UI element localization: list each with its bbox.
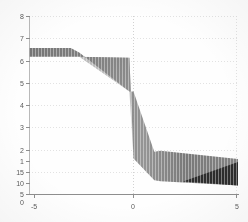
plot-area <box>29 16 238 194</box>
x-label-neg5: -5 <box>23 203 45 210</box>
y-tick-2 <box>26 150 30 151</box>
y-tick-15 <box>26 172 30 173</box>
y-label-6: 6 <box>2 58 24 65</box>
band-polygon <box>29 48 238 186</box>
y-label-10: 10 <box>0 180 24 187</box>
y-label-4: 4 <box>2 102 24 109</box>
y-tick-8 <box>26 16 30 17</box>
x-label-5: 5 <box>226 203 248 210</box>
y-label-15: 15 <box>0 169 24 176</box>
y-label-5: 5 <box>2 80 24 87</box>
band-step-column <box>79 57 133 159</box>
y-tick-4 <box>26 105 30 106</box>
y-tick-1 <box>26 161 30 162</box>
x-tick-0 <box>133 194 134 198</box>
shaded-band <box>29 16 238 194</box>
y-tick-10 <box>26 183 30 184</box>
y-tick-6 <box>26 61 30 62</box>
x-tick-5 <box>236 194 237 198</box>
y-label-8: 8 <box>2 13 24 20</box>
band-svg <box>29 16 238 194</box>
y-label-1: 1 <box>2 158 24 165</box>
x-tick-neg5 <box>34 194 35 198</box>
y-label-3: 3 <box>2 124 24 131</box>
x-label-0: 0 <box>122 203 144 210</box>
y-label-0: 0 <box>2 199 24 206</box>
y-tick-7 <box>26 38 30 39</box>
chart-figure: 8 7 6 5 4 3 2 1 15 10 5 0 -5 0 5 <box>0 0 248 222</box>
x-axis-line <box>29 194 239 195</box>
y-tick-3 <box>26 127 30 128</box>
y-label-2: 2 <box>2 147 24 154</box>
y-tick-5 <box>26 83 30 84</box>
y-tick-0 <box>26 194 30 195</box>
y-label-7: 7 <box>2 35 24 42</box>
y-label-5-lower: 5 <box>2 191 24 198</box>
